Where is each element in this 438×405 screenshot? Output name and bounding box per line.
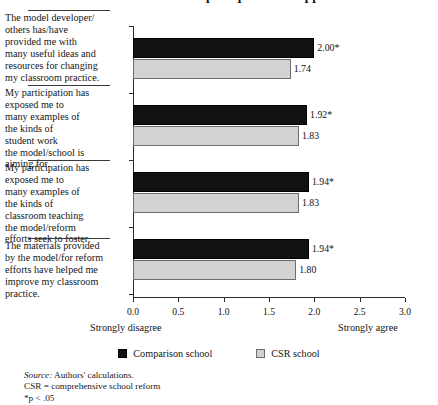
bar-value-label: 1.80 (296, 260, 316, 280)
bar-comparison-school[interactable] (133, 105, 307, 125)
x-axis-tick-label: 1.0 (218, 306, 230, 317)
category-label-line: many examples of (5, 186, 128, 198)
x-axis-tick (314, 298, 315, 302)
x-axis-tick-label: 0.0 (127, 306, 139, 317)
scale-anchor-high: Strongly agree (338, 322, 398, 333)
y-axis-tick (129, 294, 133, 295)
category-label-line: practice. (5, 288, 128, 300)
bar-group: 1.94*1.83 (133, 172, 405, 214)
y-axis-tick (129, 160, 133, 161)
category-label-line: provided me with (5, 36, 128, 48)
x-axis-tick (224, 298, 225, 302)
bar-value-label: 1.94* (309, 172, 334, 192)
bar-csr-school[interactable] (133, 126, 299, 146)
category-separator-rule (28, 10, 110, 11)
x-axis-tick-label: 3.0 (399, 306, 411, 317)
category-label-line: the model/school is (5, 147, 128, 159)
source-note-text: Authors' calculations. (52, 370, 134, 380)
category-label-group: The materials providedby the model/for r… (0, 238, 132, 302)
category-label-line: the model/reform (5, 222, 128, 234)
category-label-line: the kinds of (5, 198, 128, 210)
legend-item[interactable]: CSR school (256, 348, 319, 359)
bar-value-label: 1.83 (299, 193, 319, 213)
legend-swatch-icon (118, 349, 127, 358)
category-label-line: My participation has (5, 87, 128, 99)
y-axis-tick (129, 26, 133, 27)
scale-anchor-low: Strongly disagree (90, 322, 162, 333)
x-axis-tick (360, 298, 361, 302)
category-label-group: The model developer/others has/haveprovi… (0, 10, 132, 85)
legend-swatch-icon (256, 349, 265, 358)
bar-group: 2.00*1.74 (133, 38, 405, 80)
abbreviation-note: CSR = comprehensive school reform (24, 381, 160, 392)
x-axis-tick (405, 298, 406, 302)
chart-plot-area: 0.00.51.01.52.02.53.02.00*1.741.92*1.831… (133, 26, 405, 298)
x-axis-tick-label: 0.5 (172, 306, 184, 317)
category-separator-rule (28, 160, 110, 161)
category-label-line: the kinds of (5, 123, 128, 135)
bar-csr-school[interactable] (133, 193, 299, 213)
bar-comparison-school[interactable] (133, 239, 309, 259)
bar-csr-school[interactable] (133, 59, 291, 79)
bar-value-label: 1.83 (299, 126, 319, 146)
bar-group: 1.92*1.83 (133, 105, 405, 147)
category-label-line: many examples of (5, 111, 128, 123)
figure-title-text: teachers' perceptions of support (150, 0, 337, 4)
category-label-line: classroom teaching (5, 210, 128, 222)
category-label-line: exposed me to (5, 99, 128, 111)
category-label-line: student work (5, 135, 128, 147)
x-axis-tick (269, 298, 270, 302)
x-axis-tick-label: 2.5 (354, 306, 366, 317)
category-label-line: my classroom practice. (5, 72, 128, 84)
bar-value-label: 1.92* (307, 105, 332, 125)
category-label-line: exposed me to (5, 174, 128, 186)
bar-csr-school[interactable] (133, 260, 296, 280)
x-axis-tick (133, 298, 134, 302)
y-axis-tick (129, 93, 133, 94)
chart-legend: Comparison schoolCSR school (0, 348, 438, 359)
x-axis-tick-label: 2.0 (308, 306, 320, 317)
category-label-group: My participation hasexposed me tomany ex… (0, 160, 132, 247)
category-label-line: others has/have (5, 24, 128, 36)
x-axis-tick (178, 298, 179, 302)
category-label-line: by the model/for reform (5, 252, 128, 264)
source-note: Source: Authors' calculations. (24, 370, 160, 381)
legend-label: CSR school (271, 348, 319, 359)
legend-item[interactable]: Comparison school (118, 348, 212, 359)
bar-value-label: 1.94* (309, 239, 334, 259)
category-label-line: My participation has (5, 162, 128, 174)
bar-value-label: 1.74 (291, 59, 311, 79)
category-label-line: The materials provided (5, 240, 128, 252)
figure-title-cropped: teachers' perceptions of support (0, 0, 438, 7)
category-label-line: resources for changing (5, 60, 128, 72)
category-label-line: improve my classroom (5, 276, 128, 288)
category-label-line: many useful ideas and (5, 48, 128, 60)
bar-comparison-school[interactable] (133, 172, 309, 192)
x-axis-tick-label: 1.5 (263, 306, 275, 317)
category-separator-rule (28, 85, 110, 86)
legend-label: Comparison school (133, 348, 212, 359)
source-note-label: Source: (24, 370, 52, 380)
category-label-line: The model developer/ (5, 12, 128, 24)
category-separator-rule (28, 238, 110, 239)
bar-comparison-school[interactable] (133, 38, 314, 58)
category-label-line: efforts have helped me (5, 264, 128, 276)
significance-note: *p < .05 (24, 393, 160, 404)
figure-notes: Source: Authors' calculations. CSR = com… (24, 370, 160, 404)
bar-group: 1.94*1.80 (133, 239, 405, 281)
y-axis-tick (129, 227, 133, 228)
bar-value-label: 2.00* (314, 38, 339, 58)
